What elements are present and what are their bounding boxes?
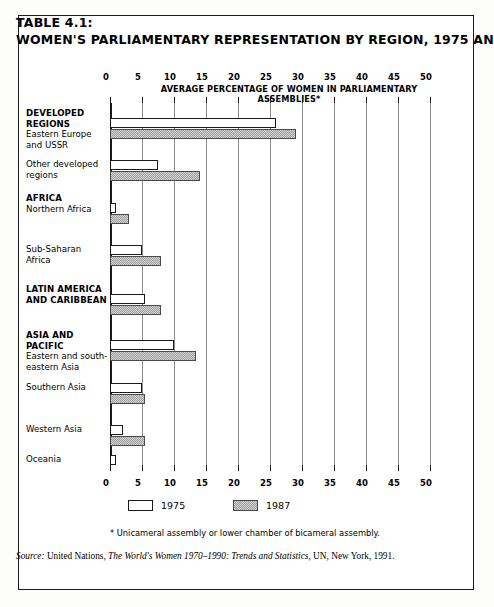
bar-1987-row-7 [110, 436, 145, 446]
category-label-7: Western Asia [26, 424, 112, 435]
tickmark-25 [270, 465, 271, 471]
table-figure-page: TABLE 4.1: WOMEN'S PARLIAMENTARY REPRESE… [0, 0, 494, 607]
category-label-line-8-0: Oceania [26, 454, 112, 465]
source-line: Source: United Nations, The World's Wome… [16, 551, 446, 561]
source-work-title: The World's Women 1970–1990: Trends and … [108, 551, 308, 561]
tick-label-25: 25 [260, 478, 272, 488]
bar-1975-row-4 [110, 294, 145, 304]
gridline-45 [398, 103, 399, 465]
category-label-line-3-0: Sub-Saharan [26, 244, 112, 255]
tick-label-15: 15 [196, 478, 208, 488]
category-label-header-0: DEVELOPED REGIONS [26, 108, 112, 129]
x-axis-labels-top: 05101520253035404550 [110, 86, 430, 98]
tickmark-40 [366, 465, 367, 471]
category-label-8: Oceania [26, 454, 112, 465]
legend-swatch-1975 [128, 500, 153, 511]
tick-label-0: 0 [103, 478, 109, 488]
tick-label-25: 25 [260, 72, 272, 82]
category-label-line-2-0: Northern Africa [26, 204, 112, 215]
legend-label-1975: 1975 [161, 500, 185, 511]
category-label-line-0-0: Eastern Europe [26, 129, 112, 140]
bar-1975-row-3 [110, 245, 142, 255]
tick-label-15: 15 [196, 72, 208, 82]
gridline-25 [270, 103, 271, 465]
tickmark-35 [334, 465, 335, 471]
category-label-line-6-0: Southern Asia [26, 382, 112, 393]
tick-label-50: 50 [420, 478, 432, 488]
legend-swatch-1987 [233, 500, 258, 511]
bar-1987-row-1 [110, 171, 200, 181]
tick-label-10: 10 [164, 478, 176, 488]
tick-label-0: 0 [103, 72, 109, 82]
gridline-5 [142, 103, 143, 465]
source-suffix: , UN, New York, 1991. [308, 551, 394, 561]
bar-1975-row-5 [110, 340, 174, 350]
category-label-line-7-0: Western Asia [26, 424, 112, 435]
bar-1987-row-6 [110, 394, 145, 404]
tickmark-45 [398, 465, 399, 471]
tickmark-50 [430, 97, 431, 103]
category-label-line-5-0: Eastern and south- [26, 351, 112, 362]
gridline-35 [334, 103, 335, 465]
category-label-line-4-0: AND CARIBBEAN [26, 295, 112, 306]
category-label-5: ASIA AND PACIFICEastern and south-easter… [26, 330, 112, 372]
tick-label-30: 30 [292, 72, 304, 82]
tickmark-50 [430, 465, 431, 471]
tick-label-30: 30 [292, 478, 304, 488]
tick-label-45: 45 [388, 478, 400, 488]
category-label-line-5-1: eastern Asia [26, 362, 112, 373]
legend-label-1987: 1987 [266, 500, 290, 511]
source-agency: United Nations, [47, 551, 106, 561]
source-prefix: Source: [16, 551, 45, 561]
gridline-30 [302, 103, 303, 465]
gridline-20 [238, 103, 239, 465]
tickmark-20 [238, 465, 239, 471]
tickmark-10 [174, 465, 175, 471]
tick-label-40: 40 [356, 478, 368, 488]
category-label-line-0-1: and USSR [26, 140, 112, 151]
category-label-header-5: ASIA AND PACIFIC [26, 330, 112, 351]
tick-label-50: 50 [420, 72, 432, 82]
tickmark-30 [302, 465, 303, 471]
category-label-line-3-1: Africa [26, 255, 112, 266]
tick-label-35: 35 [324, 72, 336, 82]
bar-1975-row-0 [110, 118, 276, 128]
bar-1987-row-3 [110, 256, 161, 266]
tick-label-20: 20 [228, 72, 240, 82]
legend: 1975 1987 [110, 500, 430, 516]
legend-item-1975: 1975 [128, 500, 185, 511]
category-label-header-2: AFRICA [26, 193, 112, 204]
chart-area: 05101520253035404550 0510152025303540455… [0, 0, 456, 575]
category-label-6: Southern Asia [26, 382, 112, 393]
bar-1975-row-6 [110, 383, 142, 393]
gridline-10 [174, 103, 175, 465]
tickmark-0 [110, 465, 111, 471]
category-label-1: Other developedregions [26, 159, 112, 180]
tickmark-5 [142, 465, 143, 471]
category-label-2: AFRICANorthern Africa [26, 193, 112, 214]
tick-label-5: 5 [135, 478, 141, 488]
tick-label-5: 5 [135, 72, 141, 82]
bar-1987-row-5 [110, 351, 196, 361]
x-axis-labels-bottom: 05101520253035404550 [110, 472, 430, 484]
gridline-50 [430, 103, 431, 465]
footnote: * Unicameral assembly or lower chamber o… [110, 528, 440, 538]
category-label-3: Sub-SaharanAfrica [26, 244, 112, 265]
bar-1987-row-0 [110, 129, 296, 139]
tick-label-40: 40 [356, 72, 368, 82]
legend-item-1987: 1987 [233, 500, 290, 511]
plot-region [110, 103, 430, 465]
bar-1987-row-2 [110, 214, 129, 224]
category-label-line-1-1: regions [26, 170, 112, 181]
category-label-4: LATIN AMERICAAND CARIBBEAN [26, 284, 112, 305]
category-label-line-1-0: Other developed [26, 159, 112, 170]
tick-label-45: 45 [388, 72, 400, 82]
tick-label-35: 35 [324, 478, 336, 488]
gridline-15 [206, 103, 207, 465]
tick-label-20: 20 [228, 478, 240, 488]
bar-1975-row-1 [110, 160, 158, 170]
x-axis-ticks-bottom [110, 465, 430, 471]
tick-label-10: 10 [164, 72, 176, 82]
gridline-40 [366, 103, 367, 465]
bar-1987-row-4 [110, 305, 161, 315]
